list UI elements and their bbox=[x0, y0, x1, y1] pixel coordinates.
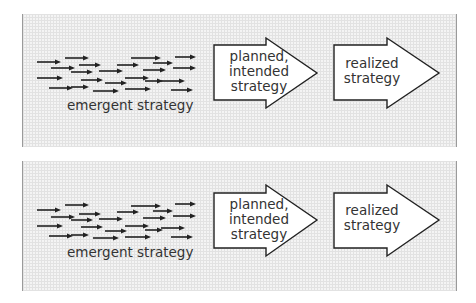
small-arrowhead-icon bbox=[190, 201, 196, 206]
small-arrowhead-icon bbox=[155, 203, 161, 208]
small-arrowhead-icon bbox=[95, 211, 101, 216]
small-arrowhead-icon bbox=[117, 216, 123, 221]
small-arrowhead-icon bbox=[113, 235, 119, 240]
small-arrowhead-icon bbox=[95, 62, 101, 67]
top-planned-line-2: intended bbox=[219, 64, 299, 79]
small-arrowhead-icon bbox=[145, 86, 151, 91]
small-arrowhead-icon bbox=[179, 225, 185, 230]
small-arrowhead-icon bbox=[55, 59, 61, 64]
bottom-realized-strategy-label: realized strategy bbox=[336, 203, 408, 233]
small-arrowhead-icon bbox=[133, 62, 139, 67]
small-arrowhead-icon bbox=[83, 202, 89, 207]
small-arrowhead-icon bbox=[145, 234, 151, 239]
small-arrowhead-icon bbox=[187, 234, 193, 239]
top-realized-line-2: strategy bbox=[336, 71, 408, 86]
top-realized-strategy-label: realized strategy bbox=[336, 56, 408, 86]
small-arrowhead-icon bbox=[83, 55, 89, 60]
small-arrowhead-icon bbox=[179, 78, 185, 83]
small-arrowhead-icon bbox=[121, 80, 127, 85]
small-arrowhead-icon bbox=[69, 65, 75, 70]
small-arrowhead-icon bbox=[155, 55, 161, 60]
small-arrowhead-icon bbox=[57, 223, 63, 228]
small-arrowhead-icon bbox=[113, 88, 119, 93]
small-arrowhead-icon bbox=[97, 77, 103, 82]
bottom-realized-line-2: strategy bbox=[336, 218, 408, 233]
small-arrowhead-icon bbox=[190, 65, 196, 70]
small-arrowhead-icon bbox=[167, 60, 173, 65]
small-arrowhead-icon bbox=[160, 67, 166, 72]
small-arrowhead-icon bbox=[83, 84, 89, 89]
small-arrowhead-icon bbox=[55, 207, 61, 212]
small-arrowhead-icon bbox=[143, 75, 149, 80]
small-arrowhead-icon bbox=[187, 87, 193, 92]
bottom-planned-line-1: planned, bbox=[219, 197, 299, 212]
small-arrowhead-icon bbox=[87, 69, 93, 74]
top-realized-line-1: realized bbox=[336, 56, 408, 71]
small-arrowhead-icon bbox=[143, 223, 149, 228]
small-arrowhead-icon bbox=[67, 233, 73, 238]
bottom-realized-line-1: realized bbox=[336, 203, 408, 218]
small-arrowhead-icon bbox=[83, 232, 89, 237]
top-planned-line-3: strategy bbox=[219, 79, 299, 94]
small-arrowhead-icon bbox=[97, 224, 103, 229]
small-arrowhead-icon bbox=[190, 213, 196, 218]
top-emergent-strategy-label: emergent strategy bbox=[67, 97, 193, 113]
top-planned-line-1: planned, bbox=[219, 49, 299, 64]
bottom-planned-line-3: strategy bbox=[219, 227, 299, 242]
small-arrowhead-icon bbox=[160, 215, 166, 220]
small-arrowhead-icon bbox=[190, 54, 196, 59]
small-arrowhead-icon bbox=[57, 75, 63, 80]
bottom-planned-line-2: intended bbox=[219, 212, 299, 227]
top-strategy-panel: emergent strategy planned, intended stra… bbox=[22, 14, 457, 147]
small-arrowhead-icon bbox=[133, 209, 139, 214]
small-arrowhead-icon bbox=[121, 228, 127, 233]
bottom-planned-strategy-label: planned, intended strategy bbox=[219, 197, 299, 242]
small-arrowhead-icon bbox=[167, 208, 173, 213]
small-arrowhead-icon bbox=[69, 214, 75, 219]
small-arrowhead-icon bbox=[87, 217, 93, 222]
top-planned-strategy-label: planned, intended strategy bbox=[219, 49, 299, 94]
bottom-strategy-panel: emergent strategy planned, intended stra… bbox=[22, 161, 457, 291]
bottom-emergent-strategy-label: emergent strategy bbox=[67, 244, 193, 260]
small-arrowhead-icon bbox=[117, 68, 123, 73]
small-arrowhead-icon bbox=[67, 85, 73, 90]
